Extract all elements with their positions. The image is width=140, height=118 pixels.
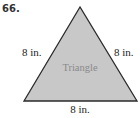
right-side-label: 8 in. [114,46,134,58]
bottom-side-label: 8 in. [70,103,90,115]
left-side-label: 8 in. [22,46,42,58]
triangle-label: Triangle [62,62,98,73]
triangle-diagram: Triangle 8 in. 8 in. 8 in. [0,0,140,118]
